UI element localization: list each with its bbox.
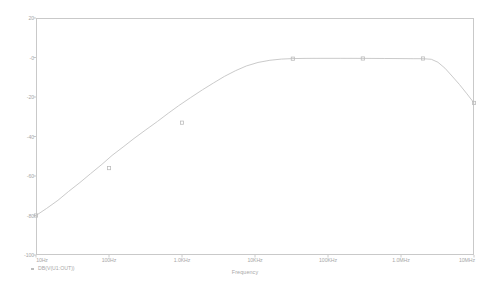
y-tick-label: -0: [4, 55, 34, 61]
x-tick-label: 10MHz: [459, 257, 475, 263]
x-axis-title: Frequency: [0, 268, 490, 276]
x-tick-label: 100KHz: [319, 257, 337, 263]
trace-curve: [36, 58, 474, 215]
y-tick-label: -20: [4, 94, 34, 100]
x-tick-label: 10KHz: [247, 257, 262, 263]
data-point-marker: [180, 121, 183, 124]
y-tick-label: 20: [4, 15, 34, 21]
trace-data-point-markers: [34, 57, 475, 217]
x-tick-label: 1.0KHz: [174, 257, 190, 263]
data-point-marker: [107, 167, 110, 170]
y-tick-label: -60: [4, 173, 34, 179]
y-axis-tick-labels: 20-0-20-40-60-80-100: [0, 0, 34, 292]
x-tick-label: 1.0MHz: [392, 257, 409, 263]
y-tick-label: -40: [4, 134, 34, 140]
y-tick-label: -80: [4, 213, 34, 219]
x-tick-label: 100Hz: [102, 257, 117, 263]
x-tick-label: 10Hz: [36, 257, 48, 263]
pspice-probe-plot-window: 20-0-20-40-60-80-100 10Hz100Hz1.0KHz10KH…: [0, 0, 490, 292]
chart-canvas: [0, 0, 490, 292]
